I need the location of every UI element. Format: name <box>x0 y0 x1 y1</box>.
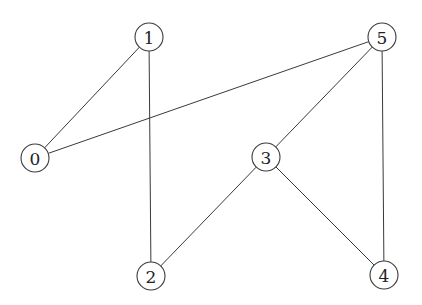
node-3: 3 <box>252 143 280 171</box>
node-label: 4 <box>379 266 390 286</box>
edge-2-3 <box>161 167 257 266</box>
node-5: 5 <box>368 23 396 51</box>
edge-0-5 <box>48 42 369 154</box>
node-label: 3 <box>261 148 272 168</box>
node-0: 0 <box>21 144 49 172</box>
node-4: 4 <box>370 261 398 289</box>
edges-layer <box>45 42 384 266</box>
node-2: 2 <box>137 262 165 290</box>
edge-3-4 <box>276 167 374 265</box>
node-label: 0 <box>30 149 41 169</box>
edge-0-1 <box>45 47 140 148</box>
node-label: 1 <box>144 28 155 48</box>
nodes-layer: 012345 <box>21 23 398 290</box>
node-label: 5 <box>377 28 388 48</box>
node-label: 2 <box>146 267 157 287</box>
edge-5-4 <box>382 51 384 261</box>
edge-1-2 <box>149 51 151 262</box>
node-1: 1 <box>135 23 163 51</box>
graph-diagram: 012345 <box>0 0 422 305</box>
edge-3-5 <box>276 47 373 147</box>
